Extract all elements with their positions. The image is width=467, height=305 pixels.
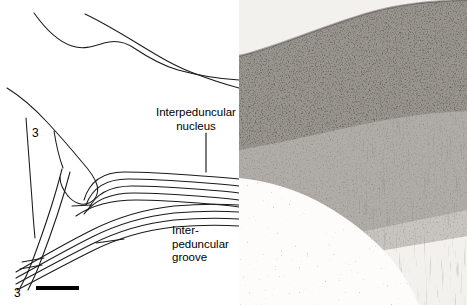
label-numeral-3-upper: 3 [32, 127, 39, 139]
label-interpeduncular-nucleus: Interpeduncular nucleus [150, 106, 242, 133]
contour-upper-ridge [34, 13, 239, 80]
label-interpeduncular-groove: Inter- peduncular groove [172, 224, 244, 265]
schematic-line-drawing: Interpeduncular nucleus Inter- peduncula… [0, 0, 239, 305]
contour-tectal-surface [85, 14, 239, 88]
label-interpeduncular-nucleus-line2: nucleus [150, 120, 242, 134]
label-interpeduncular-nucleus-line1: Interpeduncular [150, 106, 242, 120]
contour-peduncle-lobe [7, 88, 98, 204]
figure-panel: Interpeduncular nucleus Inter- peduncula… [0, 0, 467, 305]
photomicrograph-svg [239, 0, 467, 305]
label-numeral-3-lower: 3 [14, 287, 21, 299]
histology-photomicrograph [239, 0, 467, 305]
scale-bar [36, 286, 79, 290]
dash-segment-1 [72, 205, 92, 206]
label-interpeduncular-groove-line1: Inter- [172, 224, 244, 238]
fiber-fascicle-1 [84, 172, 239, 200]
label-interpeduncular-groove-line3: groove [172, 251, 244, 265]
label-interpeduncular-groove-line2: peduncular [172, 238, 244, 252]
tick-upper-3 [54, 131, 63, 168]
